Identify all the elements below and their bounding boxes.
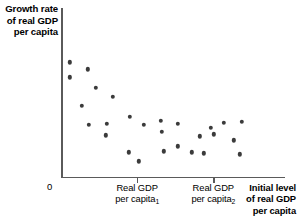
x-axis-tick-label-1-line-2: per capita1 <box>103 193 171 205</box>
data-point <box>128 115 132 119</box>
data-point <box>80 104 84 108</box>
data-point <box>159 118 163 122</box>
data-point <box>104 133 108 137</box>
data-point <box>94 86 98 90</box>
data-point <box>86 67 90 71</box>
x-axis-title-line-1: Initial level <box>230 182 296 193</box>
data-point <box>212 132 216 136</box>
data-point <box>222 120 226 124</box>
x-axis-title: Initial level of real GDP per capita <box>230 182 296 216</box>
data-point <box>176 144 180 148</box>
data-point <box>68 75 72 79</box>
y-axis-title-line-3: per capita <box>0 26 58 38</box>
data-point <box>142 122 146 126</box>
y-axis-line <box>61 8 63 178</box>
x-axis-tick-label-1: Real GDPper capita1 <box>103 182 171 206</box>
data-point <box>202 151 206 155</box>
data-point <box>68 60 72 64</box>
x-axis-tick-label-1-line-1: Real GDP <box>103 182 171 193</box>
data-point <box>111 95 115 99</box>
origin-label: 0 <box>47 181 52 192</box>
data-point <box>190 150 194 154</box>
scatter-chart-figure: Growth rate of real GDP per capita 0 Rea… <box>0 0 297 223</box>
data-point <box>232 138 236 142</box>
data-point <box>162 149 166 153</box>
data-point <box>137 159 141 163</box>
data-point <box>160 129 164 133</box>
data-point <box>240 119 244 123</box>
data-point <box>176 121 180 125</box>
y-axis-title: Growth rate of real GDP per capita <box>0 3 58 38</box>
data-point <box>105 121 109 125</box>
data-point <box>209 125 213 129</box>
x-axis-title-line-2: of real GDP <box>230 193 296 204</box>
data-point <box>198 134 202 138</box>
y-axis-title-line-1: Growth rate <box>0 3 58 15</box>
y-axis-title-line-2: of real GDP <box>0 15 58 27</box>
x-axis-line <box>61 177 285 179</box>
x-axis-title-line-3: per capita <box>230 205 296 216</box>
data-point <box>127 150 131 154</box>
data-point <box>87 122 91 126</box>
data-point <box>238 152 242 156</box>
